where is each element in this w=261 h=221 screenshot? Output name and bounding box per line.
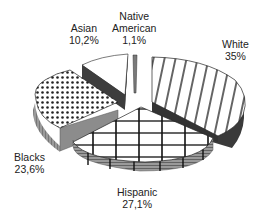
label-asian-pct: 10,2% [69, 34, 99, 46]
label-hispanic-pct: 27,1% [117, 198, 157, 210]
label-hispanic-name: Hispanic [117, 186, 157, 198]
label-blacks: Blacks 23,6% [14, 151, 45, 175]
label-native-pct: 1,1% [112, 34, 156, 46]
label-asian: Asian 10,2% [69, 22, 99, 46]
label-asian-name: Asian [69, 22, 99, 34]
label-blacks-pct: 23,6% [14, 163, 45, 175]
label-native-american: Native American 1,1% [112, 10, 156, 46]
label-blacks-name: Blacks [14, 151, 45, 163]
label-white: White 35% [222, 38, 249, 62]
label-native-line2: American [112, 22, 156, 34]
label-white-pct: 35% [222, 50, 249, 62]
label-white-name: White [222, 38, 249, 50]
label-hispanic: Hispanic 27,1% [117, 186, 157, 210]
slice-native-american [133, 55, 137, 93]
label-native-line1: Native [112, 10, 156, 22]
